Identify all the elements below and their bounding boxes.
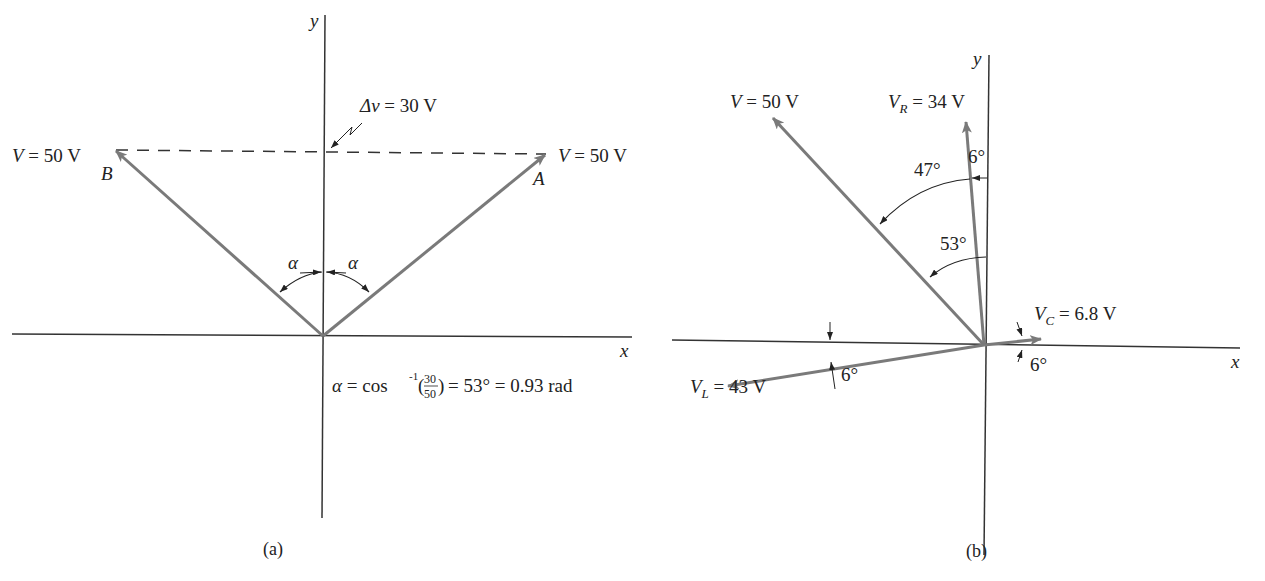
angle-VC-arrow-top	[1017, 322, 1022, 336]
label-VC: VC = 6.8 V	[1034, 303, 1117, 328]
label-VL: VL = 43 V	[690, 376, 766, 401]
x-axis-label-a: x	[619, 340, 629, 361]
x-axis-b	[672, 340, 1240, 348]
vector-A	[323, 155, 545, 336]
panel-a: y x V = 50 V B V = 50 V A Δv = 30 V α α …	[12, 10, 632, 560]
angle-47-arc	[880, 179, 970, 224]
phasor-diagram: y x V = 50 V B V = 50 V A Δv = 30 V α α …	[0, 0, 1265, 581]
y-axis-a	[322, 15, 325, 518]
angle-VR-y-label: 6°	[968, 146, 985, 167]
svg-text:): )	[438, 375, 444, 397]
alpha-formula: α = cos -1 ( 30 50 ) = 53° = 0.93 rad	[332, 370, 573, 401]
label-A: A	[531, 168, 545, 189]
vector-V	[773, 118, 984, 345]
y-axis-label-b: y	[971, 48, 982, 69]
angle-VC-arrow-bottom	[1018, 350, 1022, 362]
alpha-label-left: α	[288, 252, 299, 273]
label-A-magnitude: V = 50 V	[558, 145, 627, 166]
panel-b: y x V = 50 V VR = 34 V VC = 6.8 V VL = 4…	[672, 48, 1240, 562]
dashed-velocity-line	[116, 150, 546, 154]
angle-VL-label: 6°	[841, 364, 858, 385]
label-V: V = 50 V	[730, 91, 799, 112]
svg-text:-1: -1	[409, 370, 418, 382]
label-B-magnitude: V = 50 V	[12, 145, 81, 166]
angle-VL-arrow-bottom	[831, 362, 835, 389]
alpha-arc-right	[326, 272, 369, 292]
vector-B	[116, 151, 323, 336]
angle-53-label: 53°	[940, 233, 967, 254]
svg-text:α = cos: α = cos	[332, 375, 388, 396]
caption-a: (a)	[263, 539, 283, 560]
svg-text:= 53° = 0.93 rad: = 53° = 0.93 rad	[448, 375, 573, 396]
y-axis-b	[984, 55, 989, 555]
delta-v-leader	[331, 123, 362, 148]
angle-47-label: 47°	[914, 159, 941, 180]
label-delta-v: Δv = 30 V	[359, 95, 437, 116]
svg-text:30: 30	[424, 372, 436, 386]
alpha-arc-left	[280, 272, 322, 292]
label-B: B	[101, 163, 113, 184]
label-VR: VR = 34 V	[888, 91, 965, 116]
svg-text:50: 50	[424, 387, 436, 401]
y-axis-label-a: y	[308, 10, 319, 31]
caption-b: (b)	[966, 541, 987, 562]
x-axis-label-b: x	[1230, 351, 1240, 372]
alpha-label-right: α	[348, 252, 359, 273]
angle-VC-label: 6°	[1030, 354, 1047, 375]
